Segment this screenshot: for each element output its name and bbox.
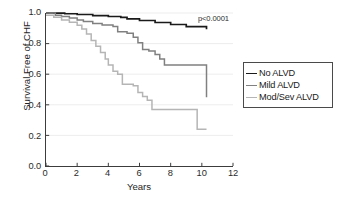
legend-box: No ALVDMild ALVDMod/Sev ALVD	[243, 62, 333, 108]
plot-canvas	[46, 13, 233, 166]
legend-line-swatch	[246, 85, 257, 86]
x-axis-title: Years	[45, 182, 233, 192]
x-axis-tick-label: 6	[129, 169, 149, 178]
x-axis-tick-label: 2	[66, 169, 86, 178]
legend-line-swatch	[246, 73, 257, 74]
x-axis-tick-label: 12	[223, 169, 243, 178]
plot-area: p<0.0001	[45, 13, 233, 167]
x-axis-tick-label: 4	[98, 169, 118, 178]
p-value-annotation: p<0.0001	[198, 15, 229, 23]
legend-item-label: No ALVD	[259, 68, 295, 78]
legend-item-label: Mod/Sev ALVD	[259, 92, 319, 102]
legend-item-label: Mild ALVD	[259, 80, 300, 90]
x-axis-tick-label: 0	[35, 169, 55, 178]
legend-line-swatch	[246, 97, 257, 98]
legend-item: Mild ALVD	[246, 79, 329, 91]
x-axis-tick-label: 10	[192, 169, 212, 178]
survival-chart-figure: 0.00.20.40.60.81.0 Survival Free of CHF …	[0, 0, 337, 203]
legend-item: No ALVD	[246, 67, 329, 79]
legend-item: Mod/Sev ALVD	[246, 91, 329, 103]
y-axis-title: Survival Free of CHF	[22, 0, 32, 141]
x-axis-tick-label: 8	[160, 169, 180, 178]
